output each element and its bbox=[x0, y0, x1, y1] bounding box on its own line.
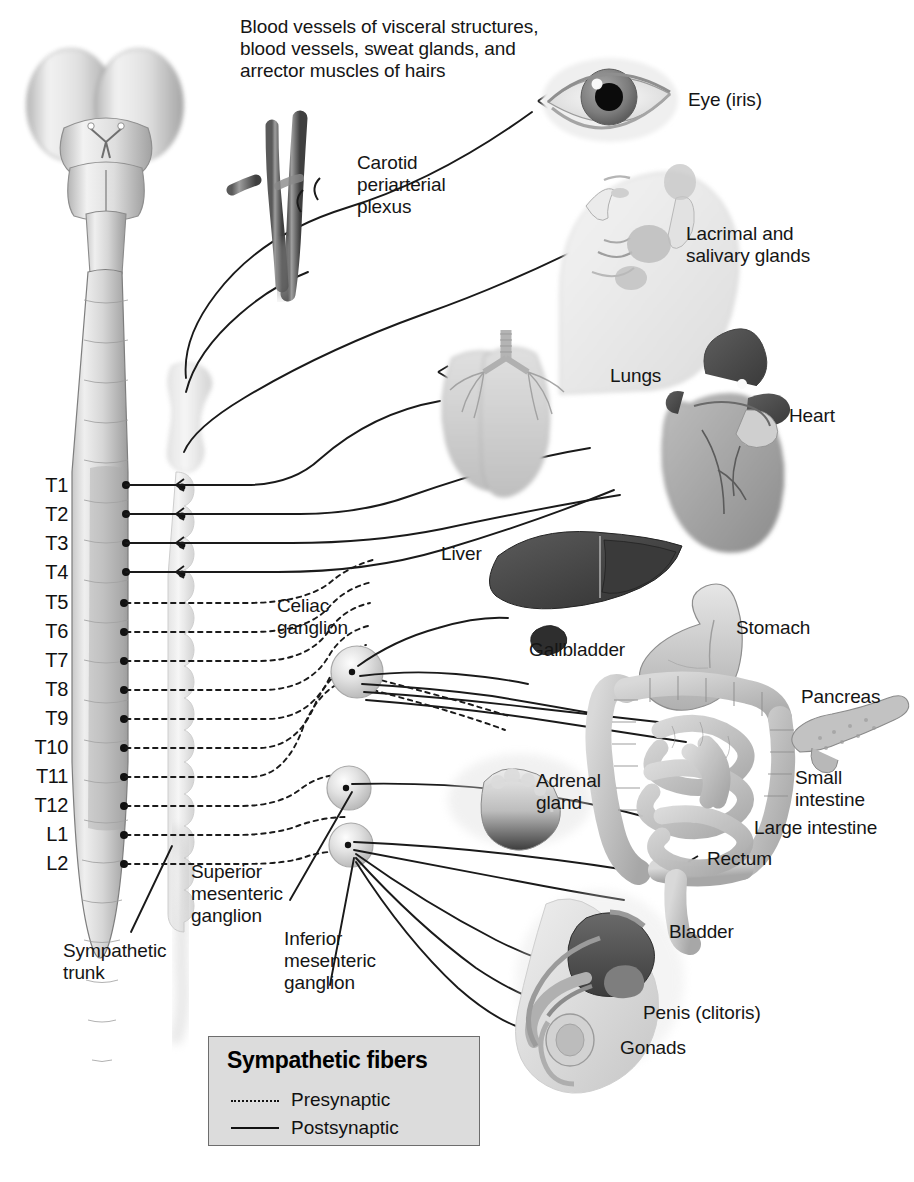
label-celiac-ganglion: Celiac ganglion bbox=[277, 595, 348, 639]
label-heart: Heart bbox=[789, 405, 835, 427]
spinal-level-t5: T5 bbox=[10, 592, 68, 612]
label-sympathetic-trunk: Sympathetic trunk bbox=[63, 940, 166, 984]
spinal-level-t11: T11 bbox=[10, 766, 68, 786]
label-large-intestine: Large intestine bbox=[754, 817, 877, 839]
label-bladder: Bladder bbox=[669, 921, 734, 943]
solid-line-swatch bbox=[231, 1127, 279, 1129]
legend-box: Sympathetic fibers Presynaptic Postsynap… bbox=[208, 1036, 480, 1146]
spinal-level-t2: T2 bbox=[10, 504, 68, 524]
label-lacrimal-salivary: Lacrimal and salivary glands bbox=[686, 223, 810, 267]
eye-illustration bbox=[542, 58, 678, 142]
spinal-level-t1: T1 bbox=[10, 475, 68, 495]
label-gallbladder: Gallbladder bbox=[529, 639, 625, 661]
prevertebral-ganglia bbox=[327, 646, 383, 867]
spinal-level-t4: T4 bbox=[10, 562, 68, 582]
spinal-level-l1: L1 bbox=[10, 824, 68, 844]
legend-label-postsynaptic: Postsynaptic bbox=[291, 1117, 399, 1139]
label-gonads: Gonads bbox=[620, 1037, 686, 1059]
figure-canvas: Blood vessels of visceral structures, bl… bbox=[0, 0, 914, 1182]
dotted-line-swatch bbox=[231, 1100, 279, 1102]
spinal-level-t7: T7 bbox=[10, 650, 68, 670]
label-superior-mesenteric-ganglion: Superior mesenteric ganglion bbox=[191, 861, 283, 927]
liver-illustration bbox=[489, 532, 682, 655]
legend-label-presynaptic: Presynaptic bbox=[291, 1089, 390, 1111]
carotid-artery-illustration bbox=[232, 118, 320, 294]
label-stomach: Stomach bbox=[736, 617, 810, 639]
brainstem-and-spinal-cord bbox=[27, 49, 183, 1062]
sympathetic-trunk-chain bbox=[168, 363, 212, 1038]
spinal-level-t6: T6 bbox=[10, 621, 68, 641]
label-rectum: Rectum bbox=[707, 848, 772, 870]
pelvic-organs-illustration bbox=[516, 890, 685, 1093]
spinal-level-t8: T8 bbox=[10, 679, 68, 699]
label-pancreas: Pancreas bbox=[801, 686, 880, 708]
label-small-intestine: Small intestine bbox=[795, 767, 865, 811]
spinal-level-t12: T12 bbox=[10, 795, 68, 815]
spinal-level-t3: T3 bbox=[10, 533, 68, 553]
intro-note: Blood vessels of visceral structures, bl… bbox=[240, 16, 538, 82]
leader-sympathetic-trunk bbox=[131, 846, 172, 932]
spinal-level-t9: T9 bbox=[10, 708, 68, 728]
label-liver: Liver bbox=[441, 543, 482, 565]
legend-title: Sympathetic fibers bbox=[227, 1047, 427, 1074]
anatomy-illustration bbox=[0, 0, 914, 1182]
label-inferior-mesenteric-ganglion: Inferior mesenteric ganglion bbox=[284, 928, 376, 994]
spinal-level-t10: T10 bbox=[10, 737, 68, 757]
lungs-illustration bbox=[442, 330, 564, 497]
label-adrenal-gland: Adrenal gland bbox=[536, 770, 601, 814]
label-lungs: Lungs bbox=[610, 365, 661, 387]
spinal-level-l2: L2 bbox=[10, 853, 68, 873]
label-eye: Eye (iris) bbox=[688, 89, 762, 111]
label-penis-clitoris: Penis (clitoris) bbox=[643, 1002, 761, 1024]
label-carotid-plexus: Carotid periarterial plexus bbox=[357, 152, 446, 218]
